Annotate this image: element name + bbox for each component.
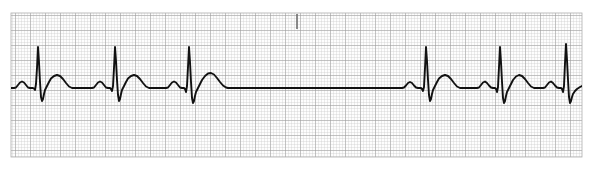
ecg-chart — [0, 0, 592, 170]
ecg-rhythm-strip — [0, 0, 592, 170]
